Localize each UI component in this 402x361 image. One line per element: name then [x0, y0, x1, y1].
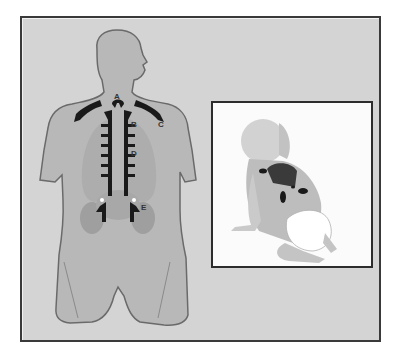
label-c: C: [158, 120, 164, 129]
label-d: D: [131, 149, 137, 158]
spine-spot: [291, 186, 295, 189]
infant-inset: [211, 101, 373, 268]
label-b: B: [131, 120, 137, 129]
label-a: A: [114, 92, 120, 101]
infant-arm-raised: [279, 123, 290, 159]
crawling-infant-figure: [213, 103, 371, 266]
lower-back-spot-left: [280, 191, 286, 203]
label-e: E: [141, 203, 147, 212]
lower-back-spot-right: [298, 188, 308, 194]
body-silhouette: [40, 30, 196, 325]
shoulder-spot: [259, 169, 267, 174]
infant-head: [241, 119, 285, 163]
